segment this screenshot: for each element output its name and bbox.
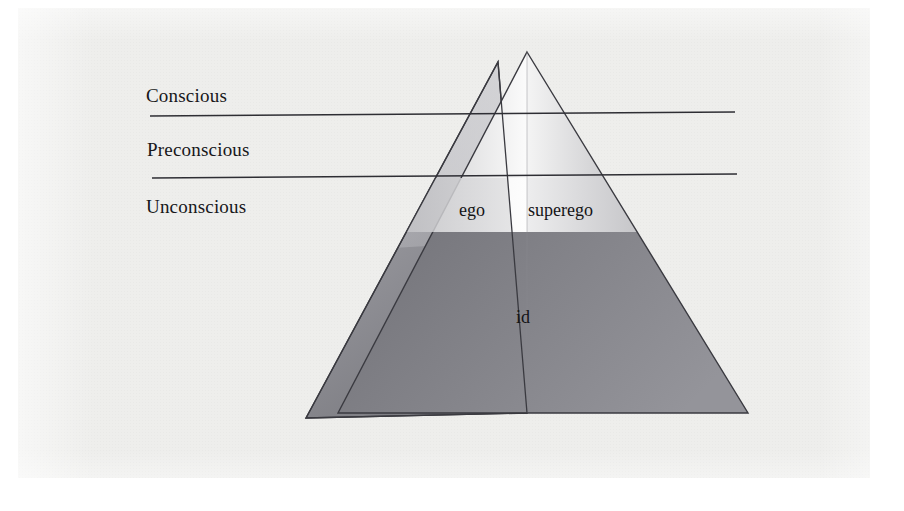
level-label-preconscious: Preconscious <box>147 139 250 161</box>
pyramid-front-face <box>290 40 790 420</box>
structure-label-id: id <box>516 307 530 328</box>
level-label-unconscious: Unconscious <box>146 196 246 218</box>
conscious-preconscious-divider <box>150 112 735 116</box>
pyramid-diagram-svg <box>0 0 904 511</box>
level-label-conscious: Conscious <box>146 85 227 107</box>
figure-page: Conscious Preconscious Unconscious ego s… <box>0 0 904 511</box>
structure-label-superego: superego <box>528 200 593 221</box>
structure-label-ego: ego <box>459 200 485 221</box>
